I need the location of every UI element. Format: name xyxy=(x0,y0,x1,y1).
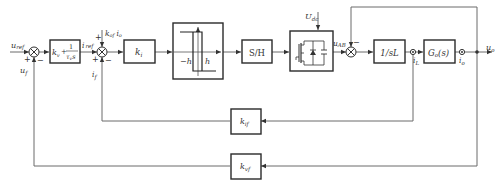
node-uo xyxy=(475,50,479,54)
inverter-block xyxy=(290,31,333,71)
sign-plus-sum2-left: + xyxy=(92,55,99,64)
label-i-ref: iref xyxy=(82,41,94,50)
pi-controller-block: kv + 1 τvs xyxy=(50,40,80,63)
sign-minus-sum1: − xyxy=(37,56,44,65)
label-U-dc: Udc xyxy=(305,12,318,22)
label-i-f: if xyxy=(92,70,97,81)
block-diagram: kv + 1 τvs ki −h h S/H xyxy=(0,0,501,188)
svg-text:S/H: S/H xyxy=(249,48,265,58)
label-u-AB: uAB xyxy=(333,39,346,48)
svg-text:Go(s): Go(s) xyxy=(428,48,449,59)
svg-text:1: 1 xyxy=(69,43,73,51)
svg-text:1/sL: 1/sL xyxy=(380,48,399,58)
inductor-block: 1/sL xyxy=(374,40,405,63)
label-i-o: io xyxy=(459,56,465,66)
kif-block: kif xyxy=(231,109,261,134)
summing-junction-3 xyxy=(346,47,356,57)
sample-hold-block: S/H xyxy=(242,40,272,63)
svg-text:h: h xyxy=(205,57,210,66)
label-i-L: iL xyxy=(413,56,419,66)
load-block: Go(s) xyxy=(424,40,455,63)
ki-block: ki xyxy=(124,40,155,63)
sign-plus-sum1: + xyxy=(24,55,31,64)
label-u-ref: uref xyxy=(11,41,25,51)
hysteresis-block: −h h xyxy=(173,23,223,79)
sign-plus-sum2-top: + xyxy=(95,33,102,42)
node-io xyxy=(459,49,464,54)
kvf-block: kvf xyxy=(231,154,261,179)
sign-minus-sum3: − xyxy=(353,38,360,47)
label-kof-io: kofio xyxy=(105,29,122,39)
label-u-o: uo xyxy=(486,43,495,53)
feedback-paths xyxy=(34,7,477,166)
node-iL xyxy=(410,49,415,54)
sign-minus-sum2: − xyxy=(105,56,112,65)
svg-text:−h: −h xyxy=(180,57,192,66)
label-u-f: uf xyxy=(20,66,28,77)
